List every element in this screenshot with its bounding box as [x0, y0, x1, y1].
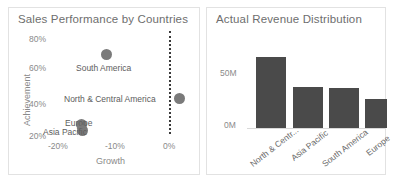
y-tick-60: 60%	[29, 63, 46, 73]
x-axis-title-growth: Growth	[96, 156, 125, 166]
y-tick-50m: 50M	[220, 68, 237, 78]
bar-chart-area: 50M 0M North & Centr... Asia Pacific Sou…	[207, 8, 385, 174]
scatter-plot-area: Achievement 80% 60% 40% 20% -20% -10% 0%…	[9, 8, 199, 174]
bar-asia-pacific[interactable]	[293, 87, 323, 128]
bar-category-europe: Europe	[364, 133, 392, 158]
scatter-point-north-central-america[interactable]	[174, 93, 185, 104]
y-tick-40: 40%	[29, 99, 46, 109]
bar-category-north-central-america: North & Centr...	[248, 125, 300, 169]
x-tick-zero: 0%	[163, 141, 175, 151]
bar-north-central-america[interactable]	[256, 57, 286, 128]
y-tick-0m: 0M	[224, 120, 236, 130]
scatter-point-south-america[interactable]	[101, 49, 112, 60]
bar-south-america[interactable]	[329, 88, 359, 128]
x-tick-minus20: -20%	[48, 141, 68, 151]
scatter-label-north-central-america: North & Central America	[64, 94, 156, 104]
scatter-label-south-america: South America	[76, 63, 131, 73]
reference-line-zero-growth	[169, 31, 171, 134]
y-tick-80: 80%	[29, 34, 46, 44]
panel-sales-performance[interactable]: Sales Performance by Countries Achieveme…	[8, 7, 200, 175]
scatter-label-asia-pacific: Asia Pacific	[43, 127, 87, 137]
x-tick-minus10: -10%	[105, 141, 125, 151]
panel-actual-revenue[interactable]: Actual Revenue Distribution 50M 0M North…	[206, 7, 386, 175]
bar-europe[interactable]	[365, 99, 387, 128]
dashboard-root: Sales Performance by Countries Achieveme…	[0, 0, 395, 187]
